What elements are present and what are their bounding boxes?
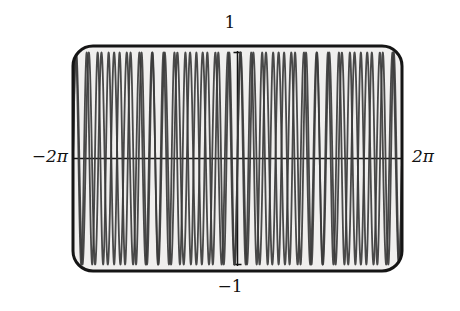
y-max-label: 1 <box>0 14 460 31</box>
plot-frame <box>71 44 404 273</box>
graphing-calculator-figure: 1 −2π 2π −1 <box>0 0 460 311</box>
x-max-label: 2π <box>412 148 458 165</box>
y-min-label: −1 <box>0 278 460 295</box>
plot-canvas <box>71 44 404 273</box>
x-min-label: −2π <box>8 148 68 165</box>
